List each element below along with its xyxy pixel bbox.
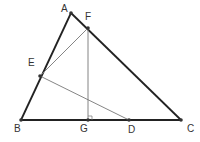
geometry-diagram: AFEBGDC [0,0,200,142]
label-e: E [28,57,35,68]
label-b: B [14,123,21,134]
segment-ed [40,76,129,120]
triangle-figure: AFEBGDC [0,0,200,142]
point-g [86,118,90,122]
point-a [69,11,73,15]
label-g: G [80,123,88,134]
label-d: D [128,124,135,135]
label-c: C [187,123,194,134]
point-c [179,118,183,122]
point-d [127,118,131,122]
point-f [86,26,90,30]
segment-ef [40,28,88,76]
label-f: F [85,11,91,22]
label-a: A [61,3,68,14]
point-e [38,74,42,78]
point-b [19,118,23,122]
